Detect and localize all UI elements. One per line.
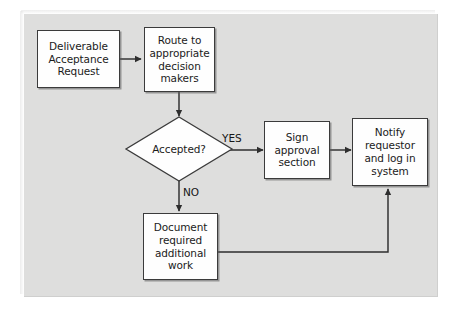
flowchart-canvas: Deliverable Acceptance Request Route to …: [0, 0, 469, 315]
node-sign-approval-section[interactable]: Sign approval section: [264, 121, 330, 179]
diagram-panel: Deliverable Acceptance Request Route to …: [24, 14, 438, 297]
node-document-required-work[interactable]: Document required additional work: [143, 213, 218, 280]
edge-label-no: NO: [183, 186, 199, 198]
node-accepted-decision[interactable]: Accepted?: [124, 115, 234, 183]
node-route-to-decision-makers[interactable]: Route to appropriate decision makers: [144, 27, 215, 92]
edge-label-yes: YES: [222, 132, 242, 144]
node-deliverable-acceptance-request[interactable]: Deliverable Acceptance Request: [37, 30, 120, 88]
edge-document-to-notify: [218, 189, 388, 252]
node-accepted-decision-label: Accepted?: [152, 143, 206, 155]
node-notify-requestor-and-log[interactable]: Notify requestor and log in system: [352, 118, 428, 186]
